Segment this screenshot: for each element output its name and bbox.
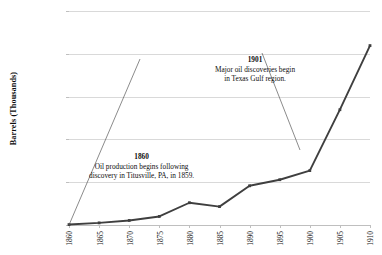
annotation-1860-year: 1860 <box>89 152 194 162</box>
annotation-1860: 1860Oil production begins followingdisco… <box>89 152 194 181</box>
annotation-1860-leader-line <box>69 59 140 225</box>
oil-production-line-chart: Barrels (Thousands) 050,000100,000150,00… <box>0 0 382 255</box>
data-point-1905 <box>339 108 342 111</box>
data-point-1880 <box>188 201 191 204</box>
x-tick-label-1860: 1860 <box>65 231 74 246</box>
data-point-1890 <box>248 184 251 187</box>
annotation-1901-year: 1901 <box>215 55 295 65</box>
x-tick-label-1870: 1870 <box>126 231 135 246</box>
x-tick-label-1885: 1885 <box>216 231 225 246</box>
x-tick-label-1895: 1895 <box>276 231 285 246</box>
data-point-1895 <box>278 178 281 181</box>
annotation-1901-line-1: Major oil discoveries begin <box>215 65 295 75</box>
x-tick-mark-1885 <box>220 225 221 228</box>
x-tick-mark-1900 <box>310 225 311 228</box>
y-axis-title: Barrels (Thousands) <box>9 44 18 174</box>
x-tick-mark-1865 <box>99 225 100 228</box>
x-tick-label-1900: 1900 <box>306 231 315 246</box>
data-point-1870 <box>128 219 131 222</box>
plot-area: 050,000100,000150,000200,000250,000 1860… <box>69 11 370 225</box>
annotation-1901-line-2: in Texas Gulf region. <box>215 74 295 84</box>
x-tick-mark-1910 <box>370 225 371 228</box>
annotation-1860-line-2: discovery in Titusville, PA, in 1859. <box>89 171 194 181</box>
x-tick-label-1865: 1865 <box>96 231 105 246</box>
annotation-1901: 1901Major oil discoveries beginin Texas … <box>215 55 295 84</box>
x-tick-mark-1870 <box>129 225 130 228</box>
data-point-1910 <box>369 44 372 47</box>
x-tick-mark-1905 <box>340 225 341 228</box>
x-tick-label-1875: 1875 <box>156 231 165 246</box>
data-series-oil-production <box>69 11 370 225</box>
data-point-1875 <box>158 215 161 218</box>
data-point-1900 <box>308 169 311 172</box>
x-tick-label-1880: 1880 <box>186 231 195 246</box>
x-tick-mark-1890 <box>250 225 251 228</box>
x-tick-label-1910: 1910 <box>366 231 375 246</box>
annotation-1860-line-1: Oil production begins following <box>89 162 194 172</box>
x-tick-mark-1880 <box>189 225 190 228</box>
x-tick-mark-1875 <box>159 225 160 228</box>
x-tick-label-1905: 1905 <box>336 231 345 246</box>
x-tick-mark-1895 <box>280 225 281 228</box>
x-tick-label-1890: 1890 <box>246 231 255 246</box>
data-point-1885 <box>218 205 221 208</box>
data-point-1865 <box>98 221 101 224</box>
